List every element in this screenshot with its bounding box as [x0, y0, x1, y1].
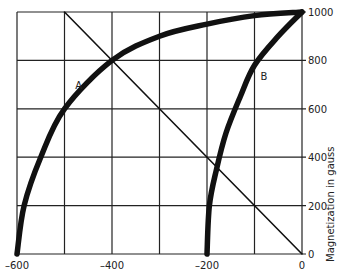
- y-tick-label: 1000: [308, 7, 333, 18]
- curve-label-a: A: [75, 80, 82, 91]
- x-tick-label: 0: [299, 260, 305, 271]
- x-tick-label: –400: [100, 260, 124, 271]
- x-tick-label: –200: [195, 260, 219, 271]
- x-tick-label: –600: [5, 260, 29, 271]
- y-tick-label: 800: [308, 55, 327, 66]
- y-tick-label: 0: [308, 249, 314, 260]
- grid: [17, 12, 306, 254]
- y-axis-label: Magnetization in gauss: [325, 146, 336, 262]
- curve-label-b: B: [261, 71, 268, 82]
- chart: –600–400–2000 02004006008001000 AB Magne…: [0, 0, 344, 276]
- annotations: AB: [75, 71, 267, 92]
- y-tick-label: 600: [308, 104, 327, 115]
- x-axis-ticks: –600–400–2000: [5, 260, 305, 271]
